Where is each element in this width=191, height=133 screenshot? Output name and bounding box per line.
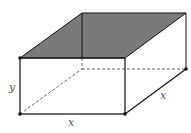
right-bottom-edge (125, 69, 186, 114)
hidden-edge-left-bottom (20, 69, 82, 114)
width-label: x (68, 116, 75, 129)
vertex-dot (184, 67, 188, 71)
vertex-dot (123, 112, 127, 116)
box-diagram: y x x (0, 0, 191, 133)
height-label: y (8, 81, 16, 94)
vertex-dot (18, 112, 22, 116)
depth-label: x (160, 89, 167, 102)
front-face (20, 58, 125, 114)
top-face (20, 13, 186, 58)
vertex-dot (18, 56, 22, 60)
